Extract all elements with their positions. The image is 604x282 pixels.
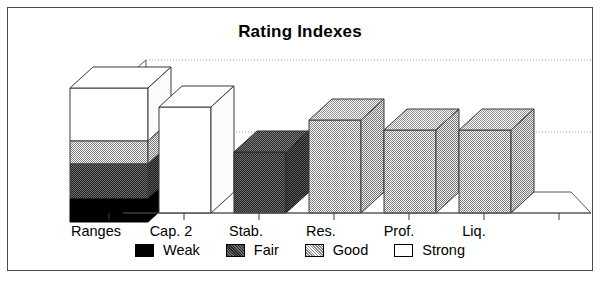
x-tick-label-stab: Stab. [229,223,263,239]
x-tick-label-cap2: Cap. 2 [150,223,193,239]
legend-item-fair[interactable]: Fair [226,242,279,258]
x-axis-ticks [109,213,559,220]
legend-item-strong[interactable]: Strong [394,242,465,258]
x-tick-label-ranges: Ranges [71,223,121,239]
legend-swatch-fair-icon [226,244,245,257]
bar-prof[interactable] [384,109,459,213]
legend-label-weak: Weak [163,242,200,258]
bar-stab[interactable] [234,131,309,213]
legend-label-fair: Fair [254,242,279,258]
chart-plot-area: 10 5 0 [8,8,594,272]
legend-label-strong: Strong [422,242,465,258]
x-axis-labels: Ranges Cap. 2 Stab. Res. Prof. Liq. [71,223,486,239]
legend-item-weak[interactable]: Weak [135,242,200,258]
chart-legend: Weak Fair Good Strong [8,242,592,258]
legend-swatch-weak-icon [135,244,154,257]
chart-frame: Rating Indexes [7,7,593,271]
legend-swatch-strong-icon [394,244,413,257]
bar-liq[interactable] [459,109,534,213]
bar-ranges[interactable] [70,67,171,222]
legend-swatch-good-icon [305,244,324,257]
x-tick-label-res: Res. [306,223,336,239]
x-tick-label-prof: Prof. [384,223,415,239]
bar-res[interactable] [309,99,384,213]
legend-item-good[interactable]: Good [305,242,368,258]
legend-label-good: Good [333,242,368,258]
bar-cap-2[interactable] [159,86,234,213]
x-tick-label-liq: Liq. [462,223,485,239]
